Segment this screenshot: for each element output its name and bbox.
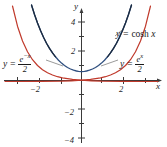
label-exp-positive-numerator: ex [135, 53, 144, 64]
x-axis-label: x [156, 82, 160, 91]
cosh-graph-figure: y = cosh x y = e−x2 y = ex2 y x 4 2 −2 −… [0, 0, 167, 147]
curve-cosh-upper-left [32, 5, 56, 57]
label-exp-negative-lhs: y = [3, 59, 18, 69]
label-exp-negative-numerator: e−x [18, 53, 31, 64]
y-tick-label-neg4: −4 [64, 136, 74, 145]
label-exp-positive: y = ex2 [120, 54, 144, 76]
label-cosh-arg: x [151, 29, 155, 39]
y-tick-label-neg2: −2 [64, 108, 74, 117]
y-axis-label: y [74, 2, 78, 11]
label-exp-negative-denominator: 2 [18, 65, 31, 74]
label-exp-positive-exponent: x [140, 52, 143, 59]
y-axis-arrowhead [80, 8, 84, 13]
x-tick-label-neg2: −2 [30, 85, 40, 94]
label-exp-positive-denominator: 2 [135, 65, 144, 74]
label-cosh-fn: cosh [131, 29, 148, 39]
label-exp-positive-lhs: y = [120, 59, 135, 69]
label-exp-negative-fraction: e−x2 [18, 53, 31, 75]
label-exp-negative: y = e−x2 [3, 54, 31, 76]
x-tick-label-2: 2 [119, 85, 123, 94]
label-cosh: y = cosh x [116, 30, 155, 40]
leader-line-exp-negative [46, 60, 63, 66]
label-cosh-lhs: y = [116, 29, 131, 39]
y-tick-label-4: 4 [71, 18, 75, 27]
label-exp-positive-fraction: ex2 [135, 53, 144, 75]
label-exp-negative-exponent: −x [23, 52, 30, 59]
y-tick-label-2: 2 [71, 47, 75, 56]
